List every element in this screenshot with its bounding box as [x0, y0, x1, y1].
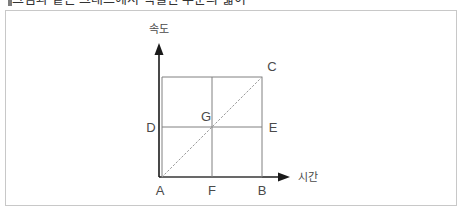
header-text-line: 그림과 같은 그래프에서 색칠한 부분의 넓이	[8, 0, 246, 7]
point-label-f: F	[208, 183, 216, 198]
point-label-e: E	[269, 120, 278, 135]
point-label-b: B	[258, 183, 267, 198]
header-remaining-text: 그림과 같은 그래프에서 색칠한 부분의 넓이	[12, 0, 246, 6]
velocity-time-figure: 속도 시간 A F B D G E C	[6, 11, 458, 207]
content-panel: 속도 시간 A F B D G E C	[5, 10, 457, 206]
point-label-d: D	[146, 120, 155, 135]
y-axis-label: 속도	[149, 23, 169, 35]
point-label-c: C	[267, 59, 276, 74]
header-text-strip: 그림과 같은 그래프에서 색칠한 부분의 넓이	[0, 0, 465, 9]
point-label-g: G	[201, 109, 211, 124]
point-label-a: A	[156, 183, 165, 198]
x-axis-label: 시간	[298, 171, 318, 183]
